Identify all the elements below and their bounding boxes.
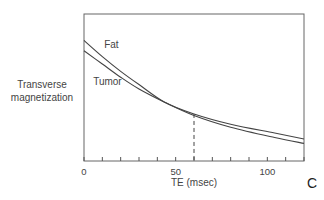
series-label-tumor: Tumor — [93, 76, 122, 87]
y-axis-title-line1: Transverse — [17, 79, 67, 90]
y-axis-title-line2: magnetization — [11, 92, 73, 103]
x-tick-label: 0 — [81, 166, 86, 177]
series-label-fat: Fat — [104, 39, 119, 50]
x-axis-title: TE (msec) — [171, 177, 217, 188]
x-axis-tick-labels: 050100 — [81, 166, 275, 177]
x-tick-label: 100 — [259, 166, 275, 177]
series-lines — [84, 40, 304, 143]
series-labels: FatTumor — [93, 39, 122, 87]
x-tick-label: 50 — [170, 166, 181, 177]
t2-decay-chart: 050100 FatTumor Transverse magnetization… — [0, 0, 324, 200]
panel-label: C — [307, 175, 317, 191]
